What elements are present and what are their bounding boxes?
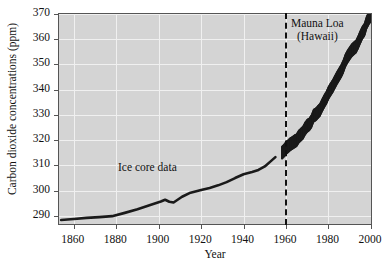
x-axis-tick-label: 1900 [138,234,178,246]
x-axis-tick-label: 1960 [265,234,305,246]
y-axis-tick-label: 350 [16,57,50,69]
x-axis-tick-label: 1940 [223,234,263,246]
y-axis-tick-label: 360 [16,32,50,44]
y-axis-tick-label: 290 [16,209,50,221]
x-axis-title: Year [58,248,372,260]
y-axis-tick-label: 320 [16,133,50,145]
x-axis-tick-label: 1880 [95,234,135,246]
y-axis-tick-label: 330 [16,108,50,120]
co2-concentration-chart: Carbon dioxide concentrations (ppm) 2903… [0,0,392,267]
x-axis-tick-label: 1920 [180,234,220,246]
mauna-loa-annotation: Mauna Loa (Hawaii) [291,17,344,43]
mauna-loa-line1: Mauna Loa [291,17,344,30]
y-axis-tick-label: 370 [16,7,50,19]
x-axis-tick-label: 2000 [350,234,390,246]
x-axis-tick-label: 1860 [53,234,93,246]
y-axis-tick-label: 300 [16,184,50,196]
dashed-divider-line [285,13,287,225]
y-axis-tick-label: 310 [16,158,50,170]
x-axis-tick-label: 1980 [307,234,347,246]
y-axis-tick-label: 340 [16,83,50,95]
mauna-loa-line2: (Hawaii) [291,30,344,43]
ice-core-annotation: Ice core data [118,161,177,173]
